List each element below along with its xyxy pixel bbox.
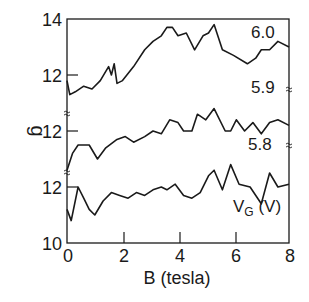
y-label-10: 10 <box>42 234 62 254</box>
y-label-12-bot: 12 <box>42 178 62 198</box>
y-label-12-top: 12 <box>42 66 62 86</box>
y-label-14: 14 <box>42 10 62 30</box>
x-label-0: 0 <box>63 246 73 266</box>
x-label-6: 6 <box>231 246 241 266</box>
x-label-8: 8 <box>285 246 295 266</box>
x-label-2: 2 <box>119 246 129 266</box>
legend-title: VG (V) <box>233 197 281 219</box>
series-label-6-0: 6.0 <box>251 23 275 42</box>
chart: 14 12 12 12 10 g 0 2 4 6 8 B (tesla) 6.0… <box>0 0 309 302</box>
series-label-5-9: 5.9 <box>251 78 275 97</box>
series-label-5-8: 5.8 <box>248 135 272 154</box>
x-label-4: 4 <box>175 246 185 266</box>
y-axis-title: g <box>27 125 49 136</box>
x-axis-title: B (tesla) <box>143 268 210 288</box>
